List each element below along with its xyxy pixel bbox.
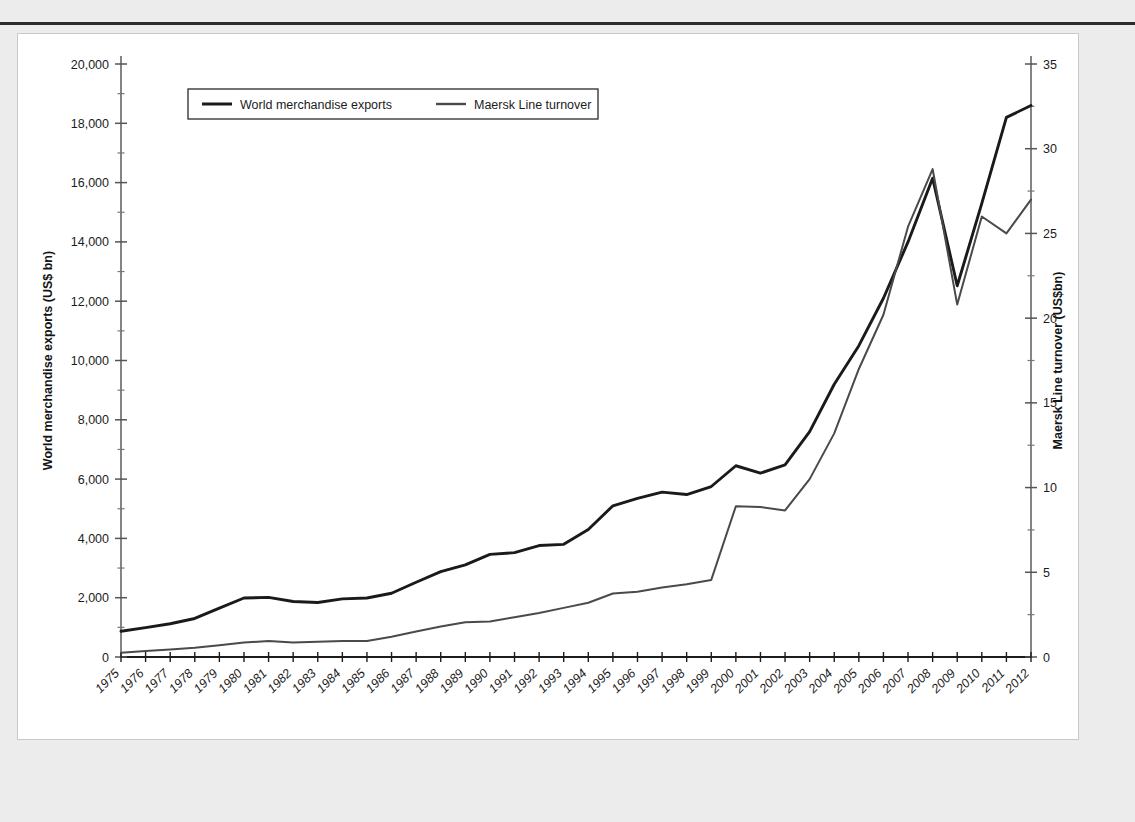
left-axis-tick-label: 10,000: [71, 354, 109, 368]
right-axis-tick-label: 35: [1043, 58, 1057, 72]
right-axis-tick-label: 10: [1043, 481, 1057, 495]
left-axis-tick-label: 4,000: [78, 532, 109, 546]
x-axis-tick-label: 2003: [780, 666, 810, 696]
x-axis-tick-label: 2006: [854, 666, 884, 696]
left-axis-tick-label: 16,000: [71, 176, 109, 190]
x-axis-tick-label: 2000: [707, 666, 737, 696]
x-axis-tick-label: 1985: [339, 666, 369, 696]
right-axis-tick-label: 25: [1043, 227, 1057, 241]
x-axis-tick-label: 1996: [609, 666, 639, 696]
x-axis-tick-label: 1997: [634, 665, 664, 695]
left-axis-tick-label: 8,000: [78, 413, 109, 427]
left-axis-tick-label: 12,000: [71, 295, 109, 309]
right-axis-tick-label: 30: [1043, 142, 1057, 156]
x-axis-tick-label: 1993: [535, 666, 565, 696]
x-axis-tick-label: 2009: [928, 666, 958, 696]
footer-band: [17, 740, 1079, 802]
left-axis-tick-label: 18,000: [71, 117, 109, 131]
x-axis-tick-label: 1980: [216, 666, 246, 696]
left-axis-tick-label: 0: [102, 651, 109, 665]
x-axis-tick-label: 1981: [240, 666, 270, 696]
x-axis-tick-label: 2002: [756, 666, 786, 696]
chart-legend: World merchandise exportsMaersk Line tur…: [188, 89, 598, 119]
line-chart: 02,0004,0006,0008,00010,00012,00014,0001…: [18, 34, 1078, 739]
series-line-maersk-line-turnover: [121, 169, 1031, 653]
x-axis-tick-label: 2004: [805, 666, 835, 696]
x-axis-tick-label: 1986: [363, 666, 393, 696]
x-axis-tick-label: 1979: [191, 666, 221, 696]
x-axis-tick-label: 1987: [388, 665, 418, 695]
x-axis-tick-label: 1995: [584, 666, 614, 696]
left-axis-tick-label: 6,000: [78, 473, 109, 487]
legend-item-label: World merchandise exports: [240, 98, 392, 112]
x-axis-tick-label: 1976: [117, 666, 147, 696]
x-axis-tick-label: 1992: [511, 666, 541, 696]
left-axis-title: World merchandise exports (US$ bn): [41, 251, 55, 470]
x-axis-tick-label: 2012: [1002, 666, 1032, 696]
x-axis-tick-label: 1994: [560, 666, 590, 696]
legend-item-label: Maersk Line turnover: [474, 98, 591, 112]
x-axis-tick-label: 1999: [683, 666, 713, 696]
left-axis-tick-label: 2,000: [78, 591, 109, 605]
x-axis-tick-label: 2005: [830, 666, 860, 696]
x-axis-tick-label: 1989: [437, 666, 467, 696]
x-axis-tick-label: 2001: [731, 666, 761, 696]
x-axis-tick-label: 1975: [93, 666, 123, 696]
x-axis-tick-label: 1977: [142, 665, 172, 695]
x-axis-tick-label: 1983: [289, 666, 319, 696]
series-line-world-merchandise-exports: [121, 106, 1031, 632]
x-axis-tick-label: 2007: [879, 665, 910, 696]
x-axis-tick-label: 2008: [903, 666, 933, 696]
chart-figure-panel: 02,0004,0006,0008,00010,00012,00014,0001…: [17, 33, 1079, 740]
left-axis-tick-label: 14,000: [71, 235, 109, 249]
x-axis-tick-label: 1982: [265, 666, 295, 696]
right-axis-title: Maersk Line turnover (US$bn): [1051, 272, 1065, 450]
right-axis-tick-label: 0: [1043, 651, 1050, 665]
left-axis-tick-label: 20,000: [71, 58, 109, 72]
x-axis-tick-label: 1984: [314, 666, 344, 696]
x-axis-tick-label: 2010: [953, 666, 983, 696]
x-axis-tick-label: 1988: [412, 666, 442, 696]
right-axis-tick-label: 5: [1043, 566, 1050, 580]
top-horizontal-rule: [0, 22, 1135, 25]
x-axis-tick-label: 1998: [658, 666, 688, 696]
x-axis-tick-label: 1978: [166, 666, 196, 696]
x-axis-tick-label: 2011: [978, 666, 1008, 696]
x-axis-tick-label: 1990: [461, 666, 491, 696]
x-axis-tick-label: 1991: [486, 666, 516, 696]
